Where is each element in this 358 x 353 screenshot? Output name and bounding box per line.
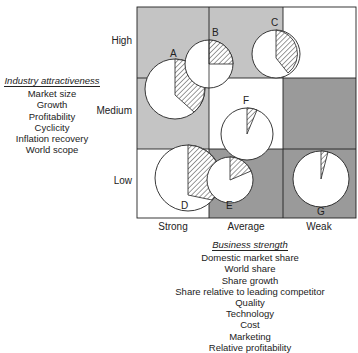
x-factor: Quality [145, 297, 355, 308]
x-factor: Cost [145, 319, 355, 330]
label-d: D [181, 200, 188, 211]
label-f: F [243, 95, 249, 106]
x-factor: World share [145, 263, 355, 274]
label-e: E [226, 200, 233, 211]
label-c: C [271, 17, 278, 28]
x-factor: Technology [145, 308, 355, 319]
label-g: G [317, 206, 325, 217]
x-factor: Domestic market share [145, 252, 355, 263]
x-factor: Share relative to leading competitor [145, 286, 355, 297]
x-level-average: Average [210, 221, 282, 232]
x-level-weak: Weak [283, 221, 355, 232]
x-factor: Marketing [145, 331, 355, 342]
x-axis-title: Business strength [212, 239, 288, 251]
label-a: A [170, 48, 177, 59]
cell-medium-weak [283, 78, 356, 149]
label-b: B [212, 27, 219, 38]
business-strength-legend: Business strength Domestic market share … [145, 239, 355, 353]
x-level-strong: Strong [137, 221, 209, 232]
x-factor: Share growth [145, 275, 355, 286]
x-factor: Relative profitability [145, 342, 355, 353]
